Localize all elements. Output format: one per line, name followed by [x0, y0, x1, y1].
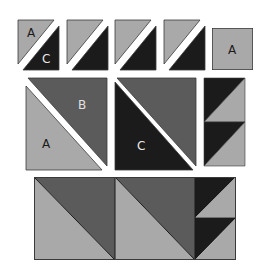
square-a-shape: A: [212, 28, 253, 70]
small-hst-unit-4: [164, 20, 205, 70]
label-c: C: [42, 52, 50, 66]
small-hst-unit-3: [115, 20, 156, 70]
small-hst-unit-3-shape: [115, 20, 156, 70]
label-a: A: [27, 26, 36, 40]
label-a: A: [42, 137, 51, 151]
small-hst-unit-1-shape: A C: [18, 20, 59, 70]
large-hst-c-b-shape: C: [115, 78, 196, 170]
label-c: C: [137, 139, 145, 153]
large-hst-c-b: C: [115, 78, 196, 170]
label-b: B: [78, 98, 86, 112]
small-hst-unit-4-shape: [164, 20, 205, 70]
small-hst-unit-1: A C: [18, 20, 59, 70]
small-hst-strip: [204, 78, 245, 166]
small-hst-strip-shape: [204, 78, 245, 166]
square-a: A: [212, 28, 253, 70]
large-hst-a-b: B A: [26, 78, 107, 170]
label-a: A: [228, 43, 237, 57]
assembled-block-shape: [34, 177, 236, 260]
large-hst-a-b-shape: B A: [26, 78, 107, 170]
small-hst-unit-2: [67, 20, 108, 70]
assembled-block: [34, 177, 236, 260]
small-hst-unit-2-shape: [67, 20, 108, 70]
